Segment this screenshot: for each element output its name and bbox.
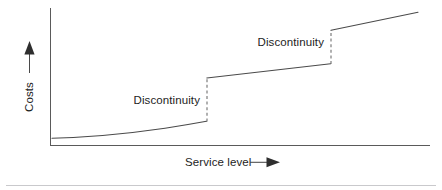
right-arrow-icon [250, 157, 280, 167]
cost-curve-segment-3 [331, 12, 418, 30]
cost-curve-segment-2 [207, 64, 331, 78]
cost-service-level-diagram: Discontinuity Discontinuity Costs Servic… [0, 0, 442, 190]
discontinuity-label-2: Discontinuity [258, 36, 325, 48]
x-axis-title: Service level [185, 156, 252, 168]
chart-canvas: Discontinuity Discontinuity Costs Servic… [0, 0, 442, 190]
x-axis-title-group: Service level [185, 156, 280, 168]
y-axis-title: Costs [23, 82, 35, 112]
discontinuity-label-1: Discontinuity [134, 94, 201, 106]
axes-group [50, 8, 430, 146]
y-axis-title-group: Costs [23, 41, 35, 112]
cost-curve-segment-1 [52, 121, 207, 138]
cost-curve-group [52, 12, 418, 138]
up-arrow-icon [24, 41, 34, 73]
